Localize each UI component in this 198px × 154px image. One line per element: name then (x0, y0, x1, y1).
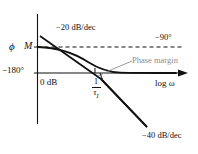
y-tick-label-M: M (24, 41, 32, 51)
bode-phase-plot-figure: ϕ M −180° 0 dB 1 τI log ω −20 dB/dec −40… (0, 0, 198, 154)
slope-label-minus-40: −40 dB/dec (142, 131, 182, 140)
x-origin-label: 0 dB (40, 78, 57, 87)
x-axis-arrowhead (178, 69, 188, 76)
corner-frequency-numerator: 1 (88, 78, 104, 86)
corner-frequency-label: 1 τI (88, 78, 104, 99)
y-tick-label-minus-180: −180° (2, 66, 24, 75)
y-axis-label: ϕ (9, 41, 15, 52)
minus-40-segment (101, 79, 147, 127)
corner-frequency-denominator: τI (88, 89, 104, 99)
phase-margin-label: Phase margin (132, 56, 178, 65)
phase-asymptote-label: −90° (155, 33, 172, 42)
slope-label-minus-20: −20 dB/dec (56, 23, 96, 32)
x-axis-label: log ω (155, 79, 175, 88)
